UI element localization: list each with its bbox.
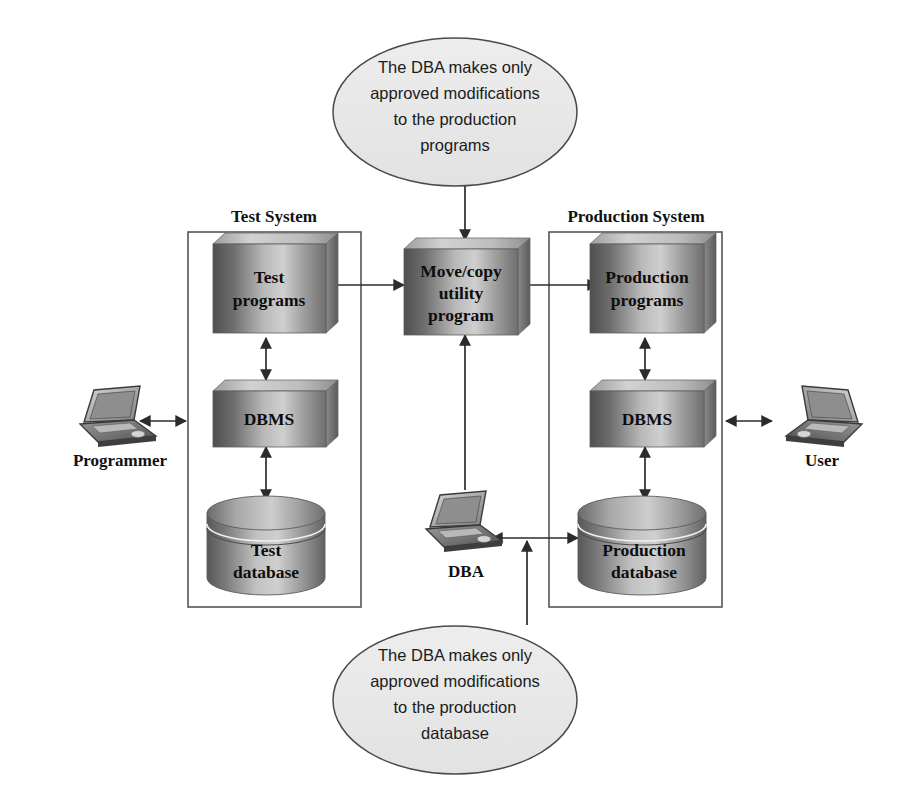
note-programs: The DBA makes only approved modification… <box>333 38 577 186</box>
move-copy-utility-top-bevel <box>404 238 530 249</box>
test-system-title: Test System <box>231 207 317 226</box>
programmer-laptop-icon <box>80 386 156 447</box>
production-database-label-line2: database <box>611 562 677 582</box>
test-dbms-block: DBMS <box>213 380 338 447</box>
test-database-label-line1: Test <box>251 540 282 560</box>
test-programs-side-bevel <box>326 233 338 333</box>
note-database: The DBA makes only approved modification… <box>333 626 577 774</box>
user-laptop-trackpad <box>797 431 811 438</box>
production-database-label-line1: Production <box>602 540 686 560</box>
production-programs-label-line1: Production <box>605 267 689 287</box>
production-programs-top-bevel <box>590 233 716 244</box>
test-programs-top-bevel <box>213 233 338 244</box>
production-system-title: Production System <box>567 207 704 226</box>
test-database-cylinder: Test database <box>207 496 325 595</box>
test-programs-label-line1: Test <box>254 267 285 287</box>
note-programs-line4: programs <box>420 136 490 154</box>
note-database-line4: database <box>421 724 489 742</box>
programmer-laptop-trackpad <box>131 431 145 438</box>
move-copy-utility-label-line3: program <box>428 305 494 325</box>
test-programs-label-line2: programs <box>233 290 306 310</box>
test-dbms-side-bevel <box>326 380 338 447</box>
production-database-top <box>578 496 706 530</box>
production-dbms-top-bevel <box>590 380 716 391</box>
move-copy-utility-label-line2: utility <box>439 283 484 303</box>
diagram-canvas: Test System Production System Test progr… <box>0 0 902 785</box>
test-programs-face <box>213 244 326 333</box>
note-database-line3: to the production <box>394 698 517 716</box>
test-dbms-top-bevel <box>213 380 338 391</box>
user-laptop-icon <box>786 386 862 447</box>
move-copy-utility-label-line1: Move/copy <box>420 261 502 281</box>
note-database-line2: approved modifications <box>370 672 540 690</box>
test-database-top <box>207 496 325 530</box>
note-programs-line1: The DBA makes only <box>378 58 533 76</box>
note-database-line1: The DBA makes only <box>378 646 533 664</box>
note-programs-line2: approved modifications <box>370 84 540 102</box>
user-label: User <box>805 451 839 470</box>
test-database-label-line2: database <box>233 562 299 582</box>
production-programs-face <box>590 244 704 333</box>
move-copy-utility-block: Move/copy utility program <box>404 238 530 335</box>
system-flow-diagram: Test System Production System Test progr… <box>0 0 902 785</box>
production-dbms-side-bevel <box>704 380 716 447</box>
dba-laptop-icon <box>426 491 502 552</box>
dba-label: DBA <box>448 562 485 581</box>
production-programs-side-bevel <box>704 233 716 333</box>
production-programs-block: Production programs <box>590 233 716 333</box>
move-copy-utility-side-bevel <box>518 238 530 335</box>
test-dbms-label: DBMS <box>244 409 295 429</box>
production-programs-label-line2: programs <box>611 290 684 310</box>
programmer-label: Programmer <box>73 451 168 470</box>
production-dbms-block: DBMS <box>590 380 716 447</box>
production-database-cylinder: Production database <box>578 496 706 595</box>
note-programs-line3: to the production <box>394 110 517 128</box>
test-programs-block: Test programs <box>213 233 338 333</box>
dba-laptop-trackpad <box>477 536 491 543</box>
production-dbms-label: DBMS <box>622 409 673 429</box>
